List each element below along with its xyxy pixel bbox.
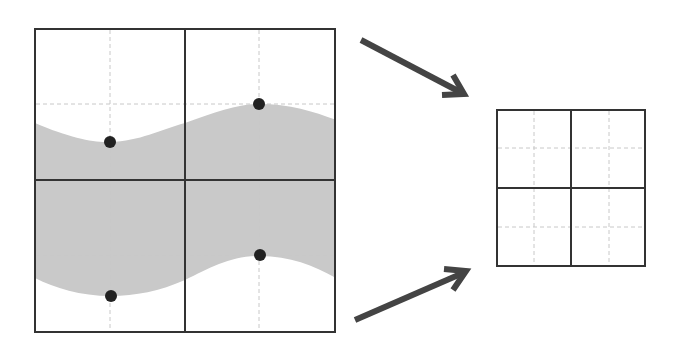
right-grid xyxy=(497,110,645,266)
arrows xyxy=(355,40,466,320)
sample-point xyxy=(104,136,116,148)
left-grid xyxy=(35,29,336,332)
top-arrow xyxy=(361,40,464,95)
bottom-arrow xyxy=(355,269,466,320)
diagram-canvas xyxy=(0,0,677,349)
sample-point xyxy=(105,290,117,302)
sample-point xyxy=(254,249,266,261)
sample-point xyxy=(253,98,265,110)
right-solid-lines xyxy=(497,110,645,266)
